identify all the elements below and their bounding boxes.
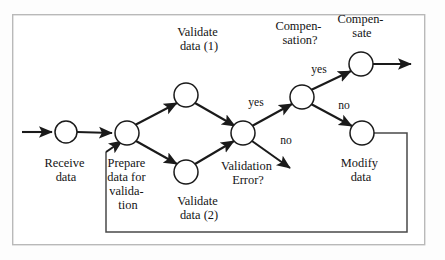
node-prepare[interactable] xyxy=(115,121,139,145)
label-compensation: Compen- sation? xyxy=(275,19,324,47)
node-validate2[interactable] xyxy=(174,160,198,184)
edge-label-validation-error-yes: yes xyxy=(248,96,264,109)
node-validate1[interactable] xyxy=(174,83,198,107)
node-validation-error[interactable] xyxy=(231,121,255,145)
edge-receive-to-prepare xyxy=(77,132,112,133)
label-validate2: Validate data (2) xyxy=(177,194,221,222)
edge-label-compensation-no: no xyxy=(338,99,350,112)
edge-label-validation-error-no: no xyxy=(280,134,292,147)
flowchart-canvas: Receive data Prepare data for valida- ti… xyxy=(0,0,445,260)
label-validate1: Validate data (1) xyxy=(177,25,221,53)
edge-label-compensation-yes: yes xyxy=(311,63,327,76)
node-receive[interactable] xyxy=(55,121,77,143)
flowchart-diagram: Receive data Prepare data for valida- ti… xyxy=(0,0,445,260)
node-compensate[interactable] xyxy=(349,52,373,76)
node-modify[interactable] xyxy=(350,121,374,145)
node-compensation[interactable] xyxy=(290,85,314,109)
